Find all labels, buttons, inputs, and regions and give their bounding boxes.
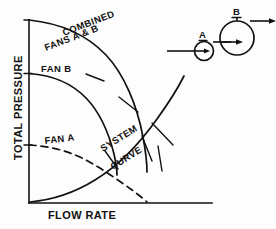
fan-curve-figure: COMBINED FANS A & B FAN B FAN A SYSTEM C… (0, 0, 276, 229)
fan-b-curve (29, 74, 117, 176)
operating-point-tick-system (158, 146, 162, 171)
x-axis-title: FLOW RATE (48, 209, 116, 221)
figure-root: COMBINED FANS A & B FAN B FAN A SYSTEM C… (0, 0, 276, 229)
fan-b-flow-arrowhead (236, 39, 243, 45)
operating-point-leader-upper (152, 123, 173, 145)
fan-b-label-leader (86, 74, 104, 81)
fan-b-circle (220, 21, 254, 55)
fan-a-schematic-label: A (199, 29, 206, 40)
fan-a-label: FAN A (44, 131, 75, 146)
fan-a-flow-arrowhead (204, 48, 210, 53)
operating-point-tick-combined (142, 136, 152, 161)
fan-b-schematic-label: B (233, 6, 240, 17)
schematic-outlet-arrowhead (269, 18, 276, 24)
curve-label: CURVE (108, 144, 144, 172)
y-axis-title: TOTAL PRESSURE (12, 55, 24, 160)
fan-b-label: FAN B (41, 63, 72, 74)
fan-schematic-group: A B (167, 6, 276, 61)
